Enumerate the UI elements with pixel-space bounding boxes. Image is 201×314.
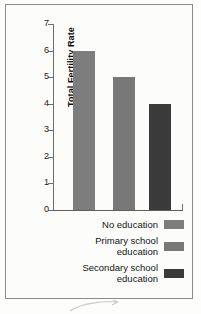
- legend-item-2: Secondary school education: [16, 262, 184, 285]
- legend-swatch: [164, 220, 184, 229]
- y-tick-label: 5: [44, 70, 49, 83]
- legend-label: No education: [102, 219, 164, 231]
- legend-swatch: [164, 242, 184, 251]
- bar-1: [113, 77, 135, 210]
- y-tick-label: 3: [44, 123, 49, 136]
- y-tick-label: 4: [44, 97, 49, 110]
- y-tick-label: 0: [44, 203, 49, 216]
- legend-label: Primary school education: [95, 235, 164, 258]
- y-tick-label: 7: [44, 17, 49, 30]
- y-tick-label: 1: [44, 176, 49, 189]
- legend-item-1: Primary school education: [16, 235, 184, 258]
- bar-0: [73, 51, 95, 210]
- chart-legend: No educationPrimary school educationSeco…: [16, 219, 184, 289]
- legend-item-0: No education: [16, 219, 184, 231]
- y-tick-label: 2: [44, 150, 49, 163]
- y-tick-label: 6: [44, 44, 49, 57]
- scan-artifact-mark: [68, 300, 126, 313]
- plot-area: Total Fertility Rate 76543210: [53, 24, 183, 211]
- legend-label: Secondary school education: [82, 262, 164, 285]
- legend-swatch: [164, 269, 184, 278]
- x-axis-end-tick: [182, 204, 183, 211]
- x-axis-line: [53, 210, 183, 211]
- figure-frame: Total Fertility Rate 76543210 No educati…: [5, 4, 193, 299]
- bar-2: [149, 104, 171, 210]
- y-axis-line: [53, 24, 54, 211]
- chart-figure: Total Fertility Rate 76543210 No educati…: [0, 0, 201, 314]
